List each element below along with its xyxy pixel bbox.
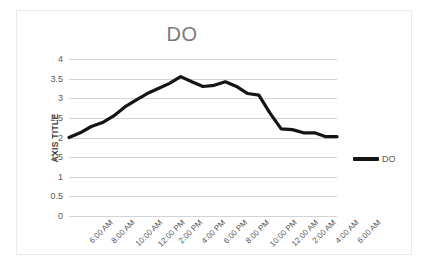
x-axis-tick-label: 4:00 AM [333, 218, 360, 245]
y-axis-tick-label: 3.5 [50, 74, 63, 84]
line-series-do [69, 59, 337, 216]
y-axis-tick-label: 1 [58, 172, 63, 182]
chart-container: DO AXIS TITLE 43.532.521.510.50 6:00 AM8… [16, 10, 412, 255]
plot-area: 43.532.521.510.50 [69, 59, 337, 216]
x-axis-tick-label: 4:00 PM [199, 218, 226, 245]
y-axis-tick-label: 3 [58, 93, 63, 103]
legend-swatch-do [353, 157, 379, 161]
x-axis-tick-labels: 6:00 AM8:00 AM10:00 AM12:00 PM2:00 PM4:0… [69, 216, 337, 261]
y-axis-tick-label: 0 [58, 211, 63, 221]
x-axis-tick-label: 6:00 AM [88, 218, 115, 245]
series-polyline [69, 77, 337, 138]
chart-legend: DO [353, 154, 396, 164]
y-axis-tick-label: 1.5 [50, 152, 63, 162]
x-axis-tick-label: 6:00 AM [356, 218, 383, 245]
y-axis-tick-label: 0.5 [50, 191, 63, 201]
y-axis-tick-label: 4 [58, 54, 63, 64]
y-axis-tick-label: 2.5 [50, 113, 63, 123]
y-axis-tick-label: 2 [58, 133, 63, 143]
chart-title: DO [17, 23, 347, 46]
legend-label-do: DO [382, 154, 396, 164]
